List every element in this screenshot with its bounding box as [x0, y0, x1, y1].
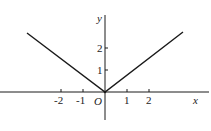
y-tick-label: 2: [97, 42, 103, 54]
x-axis-label: x: [192, 94, 198, 106]
x-tick-label: -1: [76, 94, 85, 106]
x-tick-label: -2: [54, 94, 63, 106]
y-tick-label: 1: [97, 64, 103, 76]
y-axis-label: y: [96, 12, 102, 24]
origin-label: O: [94, 95, 102, 107]
x-tick-label: 1: [124, 94, 130, 106]
vertex-point: [104, 91, 107, 94]
function-graph: -2 -1 O 1 2 x 1 2 y: [0, 0, 211, 131]
x-tick-label: 2: [146, 94, 152, 106]
